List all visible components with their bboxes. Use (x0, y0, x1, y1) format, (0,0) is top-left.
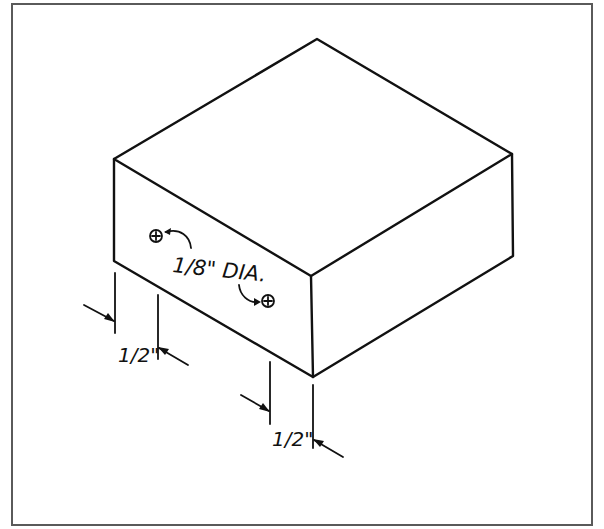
arrowhead-icon (254, 298, 261, 306)
block-top-face (114, 39, 512, 276)
right-dimension-label: 1/2" (272, 427, 313, 451)
isometric-block: 1/8" DIA. 1/2" 1/2" (0, 0, 604, 529)
arrowhead-icon (164, 228, 171, 235)
block-right-face (313, 154, 513, 377)
left-dimension-label: 1/2" (118, 343, 159, 367)
hole-note: 1/8" DIA. (171, 253, 267, 287)
arrowhead-icon (259, 403, 270, 412)
arrowhead-icon (104, 313, 115, 322)
hole-marker-icon (262, 295, 274, 307)
hole-marker-icon (150, 230, 162, 242)
